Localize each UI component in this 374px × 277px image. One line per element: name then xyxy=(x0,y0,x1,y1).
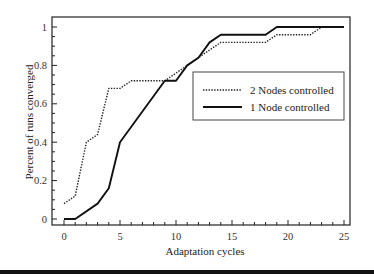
y-axis-title: Percent of runs converged xyxy=(23,64,35,179)
series-1-node-line xyxy=(64,27,344,219)
x-tick-label: 25 xyxy=(339,231,350,242)
x-tick-label: 5 xyxy=(117,231,122,242)
y-tick-label: 0.6 xyxy=(34,98,47,109)
series-layer xyxy=(64,27,344,219)
legend-label-1-node: 1 Node controlled xyxy=(250,101,330,113)
y-tick-label: 0.8 xyxy=(34,60,47,71)
plot-frame xyxy=(52,17,350,225)
y-tick-label: 0.2 xyxy=(34,175,47,186)
x-axis-title: Adaptation cycles xyxy=(165,245,244,257)
y-axis: 00.20.40.60.81 xyxy=(34,22,57,225)
y-tick-label: 0.4 xyxy=(34,137,48,148)
y-tick-label: 0 xyxy=(42,214,47,225)
x-tick-label: 10 xyxy=(171,231,182,242)
bottom-rule xyxy=(0,270,374,274)
x-tick-label: 15 xyxy=(227,231,238,242)
y-tick-label: 1 xyxy=(42,22,47,33)
legend: 2 Nodes controlled 1 Node controlled xyxy=(193,72,344,120)
plot-border xyxy=(52,17,350,225)
x-tick-label: 20 xyxy=(283,231,294,242)
legend-label-2-nodes: 2 Nodes controlled xyxy=(250,84,334,96)
x-tick-label: 0 xyxy=(61,231,66,242)
x-axis: 0510152025 xyxy=(61,220,349,242)
line-chart: 00.20.40.60.81 0510152025 Percent of run… xyxy=(0,0,374,277)
